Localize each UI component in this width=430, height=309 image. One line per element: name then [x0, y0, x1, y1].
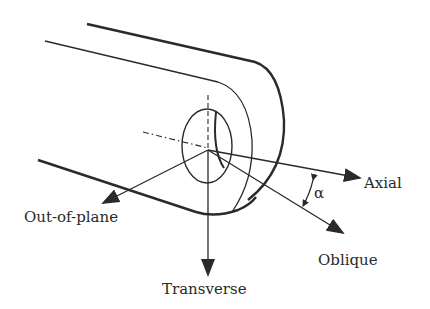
axial-label: Axial — [363, 174, 402, 192]
angle-alpha-arc — [303, 180, 313, 206]
cross-section-ellipse — [182, 109, 232, 183]
transverse-label: Transverse — [162, 280, 247, 298]
axis-direction-diagram: Axial Oblique Transverse Out-of-plane α — [0, 0, 430, 309]
out-of-plane-label: Out-of-plane — [24, 208, 118, 226]
tube-outer-top-edge — [87, 24, 284, 200]
oblique-label: Oblique — [318, 251, 378, 269]
angle-alpha-label: α — [314, 184, 324, 202]
tube-inner-edge — [45, 41, 252, 212]
axial-centerline — [143, 132, 208, 148]
